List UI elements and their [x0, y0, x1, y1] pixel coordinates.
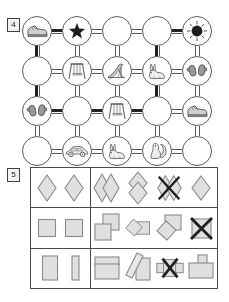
- maze-node-empty[interactable]: [142, 96, 172, 126]
- shape-item[interactable]: [155, 211, 185, 245]
- exercise-4-number: 4: [7, 18, 20, 32]
- connector-v: [195, 126, 200, 136]
- shape-item[interactable]: [92, 171, 122, 205]
- shapes-row: [31, 168, 217, 208]
- connector-v: [75, 46, 80, 56]
- maze-node-rabbit[interactable]: [142, 56, 172, 86]
- maze-node-sneaker[interactable]: [182, 96, 212, 126]
- two-rectangles-stacked-icon: [92, 251, 122, 285]
- rabbit-icon: [103, 137, 131, 165]
- row-items-cell: [91, 208, 217, 247]
- square-icon: [63, 216, 85, 240]
- maze-node-star[interactable]: [62, 16, 92, 46]
- maze-node-mittens[interactable]: [22, 96, 52, 126]
- exercise-4-section: 4: [0, 0, 229, 160]
- connector-h: [132, 29, 142, 34]
- connector-h: [92, 149, 102, 154]
- connector-v: [155, 126, 160, 136]
- connector-h: [172, 149, 182, 154]
- swing-icon: [63, 57, 91, 85]
- shape-item[interactable]: [123, 211, 153, 245]
- connector-v: [115, 46, 120, 56]
- maze-node-sneaker[interactable]: [22, 16, 52, 46]
- exercise-5-number: 5: [7, 168, 20, 182]
- diamond-over-square-icon: [123, 211, 153, 245]
- maze-node-sun[interactable]: [182, 16, 212, 46]
- diamond-icon: [36, 173, 58, 203]
- shapes-row: [31, 208, 217, 248]
- rectangles-crossed-out-icon: [155, 251, 185, 285]
- swing-icon: [103, 97, 131, 125]
- connector-h: [52, 69, 62, 74]
- maze-node-empty[interactable]: [182, 136, 212, 166]
- connector-h: [92, 29, 102, 34]
- row-items-cell: [91, 249, 217, 288]
- shape-item-crossed[interactable]: [155, 251, 185, 285]
- maze-node-empty[interactable]: [62, 96, 92, 126]
- single-diamond-icon: [189, 171, 213, 205]
- square-over-diamond-icon: [155, 211, 185, 245]
- maze-node-empty[interactable]: [22, 56, 52, 86]
- maze-node-empty[interactable]: [102, 16, 132, 46]
- small-rect-over-wide-rect-icon: [186, 251, 216, 285]
- maze-node-car[interactable]: [62, 136, 92, 166]
- connector-v: [195, 86, 200, 96]
- exercise-5-section: 5: [0, 160, 229, 302]
- rectangle-narrow-icon: [69, 253, 82, 283]
- shapes-table: [30, 167, 218, 289]
- rabbit-icon: [143, 57, 171, 85]
- two-squares-overlapping-icon: [92, 211, 122, 245]
- shape-item[interactable]: [92, 211, 122, 245]
- row-items-cell: [91, 168, 217, 207]
- square-crossed-out-icon: [187, 211, 215, 245]
- shape-item[interactable]: [186, 171, 216, 205]
- connector-h: [132, 149, 142, 154]
- shape-item-crossed[interactable]: [155, 171, 185, 205]
- mittens-icon: [23, 97, 51, 125]
- two-diamonds-overlapping-horizontal-icon: [92, 171, 122, 205]
- connector-v: [75, 126, 80, 136]
- maze-node-mittens[interactable]: [182, 56, 212, 86]
- maze-node-empty[interactable]: [22, 136, 52, 166]
- connector-v: [75, 86, 80, 96]
- two-diamonds-overlapping-vertical-icon: [125, 171, 151, 205]
- connector-h: [92, 69, 102, 74]
- maze-node-swing[interactable]: [62, 56, 92, 86]
- rectangle-wide-icon: [39, 253, 61, 283]
- connector-v: [115, 86, 120, 96]
- shapes-row: [31, 249, 217, 288]
- mittens-icon: [183, 57, 211, 85]
- connector-h: [52, 149, 62, 154]
- maze-node-rabbit[interactable]: [102, 136, 132, 166]
- connector-h: [172, 69, 182, 74]
- connector-h: [172, 109, 182, 114]
- maze-node-slide[interactable]: [102, 56, 132, 86]
- shape-item-crossed[interactable]: [186, 211, 216, 245]
- connector-h: [132, 69, 142, 74]
- connector-v: [195, 46, 200, 56]
- maze-node-swing[interactable]: [102, 96, 132, 126]
- shape-item[interactable]: [92, 251, 122, 285]
- sneaker-icon: [23, 17, 51, 45]
- shape-item[interactable]: [123, 171, 153, 205]
- maze-node-empty[interactable]: [142, 16, 172, 46]
- squirrel-icon: [143, 137, 171, 165]
- connector-v: [35, 126, 40, 136]
- sneaker-icon: [183, 97, 211, 125]
- diamond-icon: [63, 173, 85, 203]
- shape-item[interactable]: [186, 251, 216, 285]
- slide-icon: [103, 57, 131, 85]
- route-segment: [35, 109, 157, 112]
- maze-grid: [22, 16, 214, 156]
- two-diamonds-crossed-out-icon: [155, 171, 185, 205]
- maze-node-squirrel[interactable]: [142, 136, 172, 166]
- connector-v: [115, 126, 120, 136]
- star-icon: [63, 17, 91, 45]
- row-key-cell: [31, 249, 91, 288]
- tilted-rectangle-over-rectangle-icon: [123, 251, 153, 285]
- square-icon: [36, 216, 58, 240]
- shape-item[interactable]: [123, 251, 153, 285]
- row-key-cell: [31, 208, 91, 247]
- worksheet-page: 4: [0, 0, 229, 302]
- sun-dot-icon: [183, 17, 211, 45]
